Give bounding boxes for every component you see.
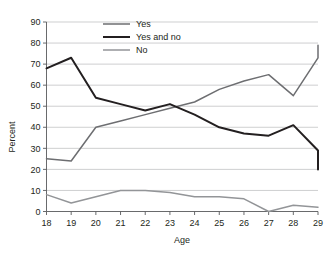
y-tick-label-40: 40 bbox=[30, 122, 40, 132]
line-chart: 0102030405060708090 18192021222324252627… bbox=[0, 0, 330, 253]
y-tick-label-60: 60 bbox=[30, 80, 40, 90]
y-tick-label-30: 30 bbox=[30, 144, 40, 154]
x-tick-label-26: 26 bbox=[239, 218, 249, 228]
y-tick-label-0: 0 bbox=[35, 207, 40, 217]
legend-label-no: No bbox=[136, 45, 148, 55]
x-tick-label-29: 29 bbox=[313, 218, 323, 228]
x-tick-label-22: 22 bbox=[140, 218, 150, 228]
x-tick-label-18: 18 bbox=[41, 218, 51, 228]
x-tick-label-19: 19 bbox=[66, 218, 76, 228]
x-tick-label-27: 27 bbox=[264, 218, 274, 228]
y-tick-label-80: 80 bbox=[30, 38, 40, 48]
x-tick-label-25: 25 bbox=[214, 218, 224, 228]
x-tick-label-28: 28 bbox=[288, 218, 298, 228]
x-tick-label-23: 23 bbox=[165, 218, 175, 228]
x-tick-label-21: 21 bbox=[116, 218, 126, 228]
x-tick-label-20: 20 bbox=[91, 218, 101, 228]
x-tick-label-24: 24 bbox=[190, 218, 200, 228]
y-tick-label-10: 10 bbox=[30, 186, 40, 196]
y-tick-label-20: 20 bbox=[30, 165, 40, 175]
x-axis-title: Age bbox=[174, 235, 190, 245]
legend-label-yes-and-no: Yes and no bbox=[136, 32, 181, 42]
y-tick-label-50: 50 bbox=[30, 101, 40, 111]
legend-label-yes: Yes bbox=[136, 19, 151, 29]
y-tick-label-70: 70 bbox=[30, 59, 40, 69]
y-axis-title: Percent bbox=[7, 121, 17, 153]
y-tick-label-90: 90 bbox=[30, 17, 40, 27]
